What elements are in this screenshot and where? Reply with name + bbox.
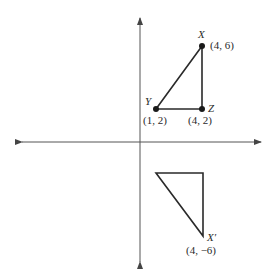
point-y — [153, 106, 159, 112]
triangle-image — [156, 173, 203, 236]
label-z-coords: (4, 2) — [188, 115, 212, 126]
label-y-coords: (1, 2) — [143, 115, 167, 126]
label-y-name: Y — [145, 96, 151, 107]
label-x-coords: (4, 6) — [210, 40, 234, 51]
point-x — [199, 43, 205, 49]
label-z-name: Z — [208, 103, 214, 114]
label-xprime-name: X′ — [207, 232, 216, 243]
point-z — [199, 106, 205, 112]
label-xprime-coords: (4, −6) — [186, 245, 216, 256]
triangle-xyz — [156, 46, 202, 109]
label-x-name: X — [198, 29, 205, 40]
